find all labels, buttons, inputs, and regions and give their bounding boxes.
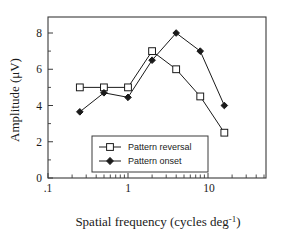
legend-label: Pattern onset [128,156,182,166]
y-axis-ticks [48,33,53,178]
y-tick-label: 8 [36,27,42,39]
data-point-filled-diamond [125,94,132,101]
y-tick-label: 2 [36,136,42,148]
x-axis-title-superscript: -1 [229,214,237,224]
x-tick-label: 10 [203,182,215,194]
y-tick-label: 4 [36,100,42,112]
data-point-filled-diamond [221,102,228,109]
legend: Pattern reversal Pattern onset [92,136,208,172]
legend-marker-open-square [107,144,114,151]
legend-label: Pattern reversal [128,142,192,152]
y-tick-label: 0 [36,172,42,184]
data-point-open-square [76,84,83,91]
x-axis-title: Spatial frequency (cycles deg-1) [75,214,240,229]
x-axis-ticks [48,173,264,178]
x-axis-tick-labels: .1 1 10 [44,182,215,194]
figure-container: 0 2 4 6 8 [0,0,283,232]
data-point-open-square [197,93,204,100]
y-axis-title: Amplitude (μV) [7,58,22,142]
y-axis-title-text: Amplitude (μV) [7,58,22,142]
series-pattern-onset [77,30,228,115]
x-tick-label: 1 [125,182,131,194]
chart-canvas: 0 2 4 6 8 [0,0,283,232]
data-series-layer [76,30,227,136]
x-axis-title-text: Spatial frequency (cycles deg-1) [75,214,240,229]
y-tick-label: 6 [36,63,42,75]
data-point-open-square [125,84,132,91]
x-tick-label: .1 [44,182,53,194]
x-axis-title-base: Spatial frequency (cycles deg [75,214,229,229]
x-axis-title-tail: ) [236,214,240,229]
legend-entry-pattern-reversal[interactable]: Pattern reversal [99,142,192,152]
data-point-open-square [221,129,228,136]
data-point-open-square [173,66,180,73]
y-axis-tick-labels: 0 2 4 6 8 [36,27,42,184]
data-point-open-square [149,48,156,55]
